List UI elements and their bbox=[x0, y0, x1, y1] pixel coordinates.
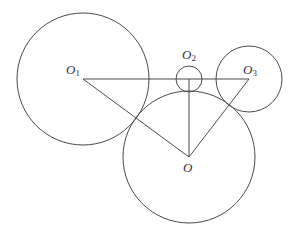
label-o: O bbox=[183, 160, 193, 175]
label-o1: O1 bbox=[66, 62, 80, 78]
label-o2-sub: 2 bbox=[191, 53, 196, 63]
segment-o1-o bbox=[83, 79, 189, 157]
segment-o3-o bbox=[189, 79, 249, 157]
label-o2: O2 bbox=[182, 47, 196, 63]
label-o3: O3 bbox=[243, 62, 257, 78]
label-o1-sub: 1 bbox=[75, 68, 80, 78]
label-o3-sub: 3 bbox=[252, 68, 257, 78]
geometry-diagram: O1 O2 O3 O bbox=[0, 0, 293, 231]
